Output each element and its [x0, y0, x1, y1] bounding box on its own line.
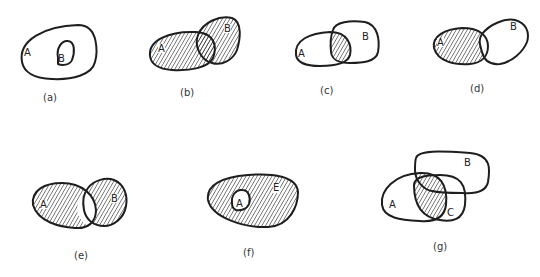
label-b: B	[464, 157, 471, 168]
label-b: B	[224, 23, 231, 34]
diagram-e: A B (e)	[33, 179, 127, 261]
caption-e: (e)	[74, 250, 88, 261]
caption-a: (a)	[43, 92, 57, 103]
label-a: A	[236, 198, 243, 209]
venn-diagram-sheet: A B (a) A B (b) A B (c)	[0, 0, 540, 277]
label-e: E	[273, 182, 279, 193]
intersection-shaded	[331, 21, 379, 63]
diagram-c: A B (c)	[296, 21, 379, 96]
caption-b: (b)	[180, 87, 194, 98]
diagram-a: A B (a)	[22, 25, 97, 103]
label-b: B	[510, 21, 517, 32]
caption-c: (c)	[320, 85, 333, 96]
diagram-f: A E (f)	[208, 174, 298, 258]
label-a: A	[158, 43, 165, 54]
label-b: B	[58, 53, 65, 64]
label-a: A	[389, 199, 396, 210]
complement-shaded	[208, 174, 298, 227]
label-a: A	[298, 48, 305, 59]
caption-d: (d)	[470, 83, 484, 94]
caption-g: (g)	[433, 241, 447, 252]
label-a: A	[40, 199, 47, 210]
caption-f: (f)	[243, 247, 254, 258]
label-a: A	[24, 47, 31, 58]
label-a: A	[437, 37, 444, 48]
diagram-g: A B C (g)	[380, 150, 500, 252]
label-b: B	[362, 31, 369, 42]
diagram-b: A B (b)	[150, 17, 240, 98]
diagram-d: A B (d)	[434, 20, 528, 94]
label-b: B	[111, 193, 118, 204]
label-c: C	[447, 207, 454, 218]
